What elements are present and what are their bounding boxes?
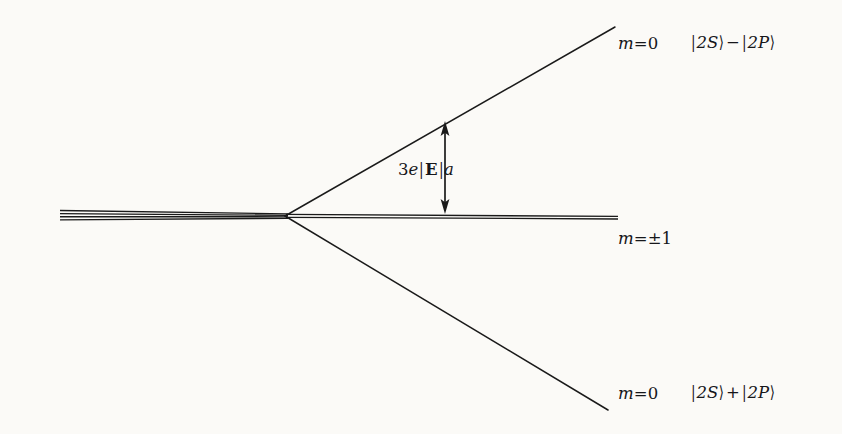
level-line-upper <box>285 27 615 216</box>
gap-bohr-radius-symbol: a <box>444 160 454 179</box>
upper-state-operator: − <box>725 33 741 52</box>
middle-m-value: ±1 <box>648 229 673 248</box>
energy-gap-label: 3e|E|a <box>398 162 454 179</box>
middle-m-symbol: m <box>618 229 634 248</box>
upper-m-value: 0 <box>648 34 659 53</box>
upper-m-symbol: m <box>618 34 634 53</box>
gap-charge-symbol: e <box>409 160 419 179</box>
diagram-canvas <box>0 0 842 434</box>
upper-ket2-symbol: 2P <box>747 33 769 52</box>
lower-m-symbol: m <box>618 384 634 403</box>
upper-ket1-right-angle: ⟩ <box>719 35 724 52</box>
lower-ket1-symbol: 2S <box>696 383 718 402</box>
level-label-upper-m: m=0 <box>618 36 658 53</box>
lower-ket1-left-bar: | <box>691 385 696 402</box>
stark-effect-diagram: 3e|E|a m=0 |2S⟩−|2P⟩ m=±1 m=0 |2S⟩+|2P⟩ <box>0 0 842 434</box>
level-line-middle <box>286 214 618 219</box>
middle-m-equals: = <box>634 229 648 248</box>
upper-ket1-left-bar: | <box>691 35 696 52</box>
level-line-lower <box>285 216 608 410</box>
bundle-line-4 <box>60 218 288 220</box>
level-label-middle-m: m=±1 <box>618 231 672 248</box>
lower-state-operator: + <box>725 383 741 402</box>
gap-coefficient: 3 <box>398 160 409 179</box>
upper-ket2-left-bar: | <box>742 35 747 52</box>
upper-m-equals: = <box>634 34 648 53</box>
upper-ket2-right-angle: ⟩ <box>770 35 775 52</box>
gap-field-symbol: E <box>425 160 438 179</box>
lower-m-value: 0 <box>648 384 659 403</box>
lower-ket2-left-bar: | <box>742 385 747 402</box>
upper-ket1-symbol: 2S <box>696 33 718 52</box>
level-label-lower-m: m=0 <box>618 386 658 403</box>
lower-ket1-right-angle: ⟩ <box>719 385 724 402</box>
gap-right-bar: | <box>438 162 443 179</box>
level-label-lower-state: |2S⟩+|2P⟩ <box>690 385 776 402</box>
lower-m-equals: = <box>634 384 648 403</box>
degenerate-level-bundle <box>60 211 288 220</box>
middle-line-2 <box>286 217 618 219</box>
level-label-upper-state: |2S⟩−|2P⟩ <box>690 35 776 52</box>
middle-line-1 <box>286 214 618 216</box>
gap-left-bar: | <box>419 162 424 179</box>
lower-ket2-symbol: 2P <box>747 383 769 402</box>
lower-ket2-right-angle: ⟩ <box>770 385 775 402</box>
